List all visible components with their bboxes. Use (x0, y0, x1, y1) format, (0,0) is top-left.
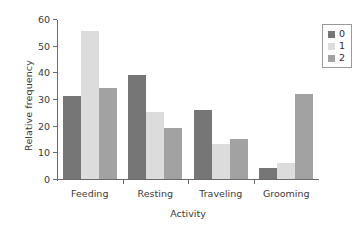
y-axis-line (57, 20, 58, 181)
legend-item: 1 (328, 40, 345, 52)
bar (63, 96, 81, 179)
y-tick-mark (53, 126, 57, 127)
y-tick-mark (53, 99, 57, 100)
bar (164, 128, 182, 179)
legend-label: 0 (339, 29, 345, 39)
y-tick-mark (53, 19, 57, 20)
y-tick-mark (53, 152, 57, 153)
x-axis-title: Activity (57, 208, 319, 219)
bar (81, 31, 99, 179)
x-category-label: Grooming (263, 188, 310, 199)
y-tick-label: 30 (38, 94, 50, 105)
y-tick-mark (53, 72, 57, 73)
bar (230, 139, 248, 179)
bar (128, 75, 146, 179)
y-tick-label: 20 (38, 120, 50, 131)
y-tick-label: 40 (38, 67, 50, 78)
bar-chart: Relative frequency 0102030405060 Feeding… (0, 0, 361, 234)
y-tick: 60 (57, 19, 58, 20)
x-category-label: Resting (138, 188, 173, 199)
bar (295, 94, 313, 179)
y-tick: 10 (57, 152, 58, 153)
y-tick-label: 50 (38, 40, 50, 51)
legend-label: 2 (339, 53, 345, 63)
bar (99, 88, 117, 179)
y-tick: 0 (57, 179, 58, 180)
y-tick: 50 (57, 46, 58, 47)
bar (212, 144, 230, 179)
bar (146, 112, 164, 179)
legend: 012 (322, 24, 352, 68)
x-tick-mark (188, 180, 189, 184)
y-tick-mark (53, 179, 57, 180)
y-tick-label: 0 (44, 174, 50, 185)
x-category-label: Feeding (71, 188, 108, 199)
y-axis-title: Relative frequency (23, 26, 34, 186)
legend-item: 0 (328, 28, 345, 40)
bar (277, 163, 295, 179)
plot-area: 0102030405060 (57, 20, 319, 180)
x-tick-mark (254, 180, 255, 184)
y-tick: 20 (57, 126, 58, 127)
x-category-label: Traveling (199, 188, 242, 199)
legend-label: 1 (339, 41, 345, 51)
y-tick: 40 (57, 72, 58, 73)
y-tick: 30 (57, 99, 58, 100)
y-tick-label: 10 (38, 147, 50, 158)
legend-swatch-icon (328, 43, 335, 50)
bar (259, 168, 277, 179)
y-tick-label: 60 (38, 14, 50, 25)
y-tick-mark (53, 46, 57, 47)
legend-item: 2 (328, 52, 345, 64)
legend-swatch-icon (328, 31, 335, 38)
x-tick-mark (123, 180, 124, 184)
legend-swatch-icon (328, 55, 335, 62)
bar (194, 110, 212, 179)
